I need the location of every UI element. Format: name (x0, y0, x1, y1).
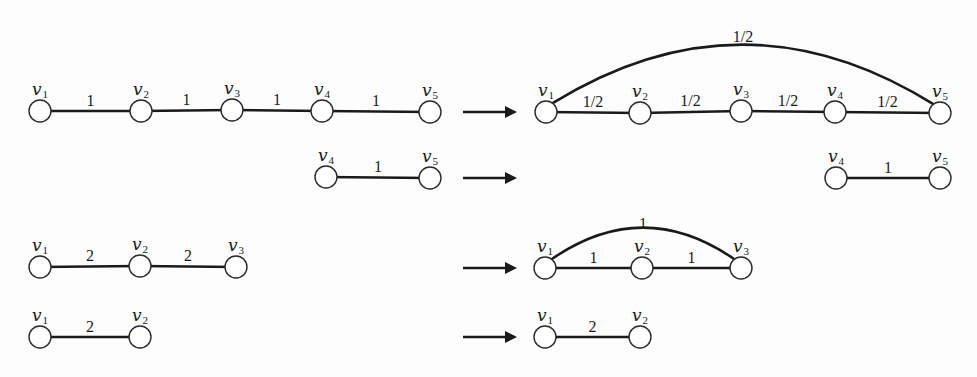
edge-weight-label: 2 (184, 247, 192, 264)
edge-weight-label: 2 (589, 318, 597, 335)
graph-node-v2 (129, 255, 151, 277)
vertex-label: v5 (422, 146, 439, 167)
arrow-right-icon (505, 331, 517, 343)
labels-layer: 1111v1v2v3v4v51/21/21/21/21/2v1v2v3v4v51… (32, 28, 949, 335)
vertex-label: v2 (132, 305, 148, 326)
vertex-subscript: 2 (143, 243, 149, 255)
graph-edge (140, 266, 236, 267)
vertex-subscript: 4 (839, 155, 845, 167)
arrows-layer (463, 106, 517, 343)
graph-edge (835, 112, 940, 113)
graph-node-v5 (929, 102, 951, 124)
edge-weight-label: 1 (374, 158, 382, 175)
graph-node-v2 (629, 102, 651, 124)
vertex-label: v3 (733, 79, 750, 100)
vertex-subscript: 5 (943, 155, 949, 167)
graph-edge (40, 266, 140, 267)
vertex-subscript: 3 (235, 87, 241, 99)
edge-weight-label: 1 (884, 159, 892, 176)
graph-node-v4 (824, 101, 846, 123)
graph-edge (232, 110, 322, 111)
vertex-label: v1 (538, 80, 554, 101)
graph-edge (546, 112, 640, 113)
vertex-label: v3 (228, 235, 245, 256)
vertex-label: v5 (422, 80, 439, 101)
vertex-subscript: 3 (239, 244, 245, 256)
vertex-label: v5 (932, 146, 949, 167)
vertex-label: v4 (827, 80, 844, 101)
vertex-label: v3 (733, 236, 750, 257)
edge-weight-label: 1 (183, 91, 191, 108)
vertex-label: v2 (133, 79, 149, 100)
vertex-label: v2 (132, 234, 148, 255)
arrow-right-icon (505, 172, 517, 184)
graph-node-v1 (534, 257, 556, 279)
edge-weight-label: 1 (639, 215, 647, 232)
graph-node-v5 (419, 167, 441, 189)
vertex-label: v5 (932, 81, 949, 102)
vertex-subscript: 3 (744, 88, 750, 100)
edges-layer (40, 45, 940, 337)
vertex-subscript: 4 (329, 154, 335, 166)
graph-edge (141, 110, 232, 111)
graph-node-v5 (929, 167, 951, 189)
graph-node-v1 (535, 101, 557, 123)
edge-weight-label: 1/2 (877, 93, 897, 110)
edge-weight-label: 1 (590, 249, 598, 266)
edge-weight-label: 1/2 (733, 28, 753, 45)
graph-node-v3 (221, 99, 243, 121)
graph-transformation-diagram: 1111v1v2v3v4v51/21/21/21/21/2v1v2v3v4v51… (0, 0, 977, 377)
graph-node-v1 (29, 326, 51, 348)
vertex-label: v3 (224, 78, 241, 99)
vertex-subscript: 1 (549, 89, 555, 101)
graph-node-v2 (631, 257, 653, 279)
vertex-label: v2 (632, 305, 648, 326)
graph-node-v1 (534, 326, 556, 348)
vertex-label: v4 (314, 79, 331, 100)
vertex-subscript: 4 (325, 88, 331, 100)
graph-edge (322, 111, 430, 112)
edge-weight-label: 2 (86, 318, 94, 335)
vertex-label: v1 (32, 235, 48, 256)
graph-edge (326, 177, 430, 178)
vertex-subscript: 1 (548, 314, 554, 326)
edge-weight-label: 1/2 (583, 93, 603, 110)
graph-node-v3 (225, 256, 247, 278)
vertex-subscript: 5 (433, 155, 439, 167)
graph-node-v3 (730, 257, 752, 279)
vertex-subscript: 2 (643, 90, 649, 102)
vertex-subscript: 2 (143, 314, 149, 326)
graph-node-v2 (629, 326, 651, 348)
vertex-label: v1 (32, 305, 48, 326)
vertex-label: v2 (634, 236, 650, 257)
vertex-label: v1 (32, 79, 48, 100)
vertex-subscript: 2 (643, 314, 649, 326)
edge-weight-label: 1 (688, 249, 696, 266)
edge-weight-label: 2 (86, 247, 94, 264)
vertex-subscript: 2 (645, 245, 651, 257)
vertex-label: v4 (828, 146, 845, 167)
graph-node-v5 (419, 101, 441, 123)
edge-weight-label: 1 (273, 91, 281, 108)
vertex-subscript: 1 (548, 245, 554, 257)
graph-edge (741, 111, 835, 112)
nodes-layer (29, 99, 951, 348)
edge-weight-label: 1 (87, 92, 95, 109)
diagram-svg: 1111v1v2v3v4v51/21/21/21/21/2v1v2v3v4v51… (0, 0, 977, 377)
vertex-subscript: 5 (433, 89, 439, 101)
vertex-subscript: 4 (838, 89, 844, 101)
vertex-subscript: 1 (43, 244, 49, 256)
vertex-label: v1 (537, 236, 553, 257)
graph-node-v3 (730, 100, 752, 122)
vertex-label: v2 (632, 81, 648, 102)
vertex-subscript: 2 (144, 88, 150, 100)
vertex-label: v1 (537, 305, 553, 326)
graph-node-v4 (825, 167, 847, 189)
graph-node-v2 (130, 100, 152, 122)
arrow-right-icon (505, 262, 517, 274)
graph-node-v1 (29, 100, 51, 122)
arrow-right-icon (505, 106, 517, 118)
graph-node-v4 (315, 166, 337, 188)
graph-edge (640, 111, 741, 113)
vertex-subscript: 3 (744, 245, 750, 257)
